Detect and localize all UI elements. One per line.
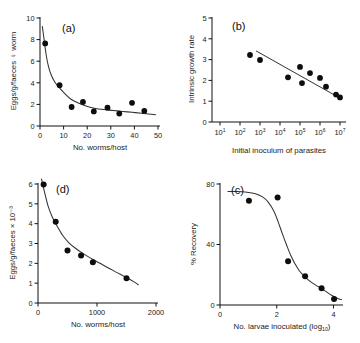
panel-c-x-ticks: 024 (218, 305, 336, 319)
svg-text:10: 10 (26, 14, 34, 23)
svg-text:5: 5 (28, 200, 32, 209)
svg-text:2: 2 (202, 76, 206, 85)
panel-b-data-points (247, 52, 343, 100)
panel-a-tag: (a) (62, 22, 75, 34)
panel-c-axes (220, 183, 343, 305)
panel-c-y-axis-label: % Recovery (189, 223, 198, 265)
panel-b-y-axis-label: Intrinsic growth rate (187, 35, 196, 103)
panel-c-tag: (c) (231, 184, 244, 196)
panel-b-regression-line (256, 51, 341, 99)
panel-b-x-ticks: 101102103104105106107 (214, 122, 345, 137)
svg-text:106: 106 (314, 127, 325, 137)
panel-c-data-points (246, 195, 337, 302)
panel-a-y-axis-label: Eggs/g/faeces ♀ worm (9, 32, 18, 111)
svg-text:1000: 1000 (89, 308, 105, 317)
svg-text:105: 105 (294, 127, 305, 137)
svg-text:2: 2 (28, 259, 32, 268)
svg-text:102: 102 (234, 127, 245, 137)
svg-text:0: 0 (202, 118, 206, 127)
svg-text:4: 4 (202, 35, 206, 44)
panel-a-x-ticks: 01020304050 (38, 126, 162, 140)
svg-text:0: 0 (38, 131, 42, 140)
svg-text:4: 4 (30, 79, 34, 88)
panel-c-fit-curve (228, 192, 341, 300)
svg-text:3: 3 (28, 239, 32, 248)
svg-text:2000: 2000 (148, 308, 164, 317)
panel-c-x-axis-label: No. larvae inoculated (log10) (234, 322, 331, 332)
svg-text:6: 6 (30, 57, 34, 66)
panel-d-svg: 010002000 0123456 (d) No. worms/host Egg… (0, 170, 180, 343)
svg-text:107: 107 (334, 127, 345, 137)
svg-text:5: 5 (202, 14, 206, 23)
panel-d-axes (38, 183, 158, 303)
panel-d-data-points (41, 181, 130, 281)
svg-text:103: 103 (254, 127, 265, 137)
panel-d-y-axis-label: Eggs/g/faeces × 10⁻³ (8, 206, 17, 280)
svg-text:0: 0 (30, 122, 34, 131)
panel-a-data-points (42, 40, 147, 116)
panel-c-y-ticks: 04080 (206, 180, 220, 310)
svg-text:104: 104 (274, 127, 285, 137)
svg-text:2: 2 (275, 310, 279, 319)
panel-a-fit-curve (42, 27, 155, 115)
panel-a-x-axis-label: No. worms/host (73, 143, 128, 152)
panel-d-x-axis-label: No. worms/host (71, 320, 126, 329)
svg-text:30: 30 (107, 131, 115, 140)
panel-b-axes (212, 17, 346, 122)
figure-container: 01020304050 0246810 (a) No. worms/host E… (0, 0, 360, 343)
svg-text:4: 4 (28, 219, 32, 228)
svg-text:10: 10 (59, 131, 67, 140)
panel-d-y-ticks: 0123456 (28, 180, 38, 308)
chart-panel-b: 101102103104105106107 012345 (b) Initial… (180, 0, 360, 172)
chart-panel-d: 010002000 0123456 (d) No. worms/host Egg… (0, 170, 180, 343)
svg-text:3: 3 (202, 55, 206, 64)
svg-text:101: 101 (214, 127, 225, 137)
panel-b-y-ticks: 012345 (202, 14, 212, 127)
svg-text:6: 6 (28, 180, 32, 189)
panel-b-svg: 101102103104105106107 012345 (b) Initial… (180, 0, 360, 172)
svg-text:0: 0 (28, 299, 32, 308)
svg-text:80: 80 (206, 180, 214, 189)
svg-text:40: 40 (130, 131, 138, 140)
svg-text:50: 50 (154, 131, 162, 140)
panel-c-svg: 024 04080 (c) No. larvae inoculated (log… (180, 170, 360, 343)
panel-b-tag: (b) (232, 20, 245, 32)
svg-text:40: 40 (206, 240, 214, 249)
svg-text:2: 2 (30, 100, 34, 109)
panel-d-tag: (d) (56, 183, 69, 195)
panel-a-svg: 01020304050 0246810 (a) No. worms/host E… (0, 0, 180, 172)
svg-text:4: 4 (331, 310, 335, 319)
svg-text:0: 0 (210, 301, 214, 310)
chart-panel-a: 01020304050 0246810 (a) No. worms/host E… (0, 0, 180, 172)
svg-text:0: 0 (218, 310, 222, 319)
panel-a-y-ticks: 0246810 (26, 14, 40, 131)
svg-text:20: 20 (83, 131, 91, 140)
svg-text:0: 0 (36, 308, 40, 317)
panel-d-x-ticks: 010002000 (36, 303, 164, 317)
svg-text:8: 8 (30, 35, 34, 44)
chart-panel-c: 024 04080 (c) No. larvae inoculated (log… (180, 170, 360, 343)
panel-b-x-axis-label: Initial inoculum of parasites (232, 146, 326, 155)
svg-text:1: 1 (28, 279, 32, 288)
svg-text:1: 1 (202, 97, 206, 106)
